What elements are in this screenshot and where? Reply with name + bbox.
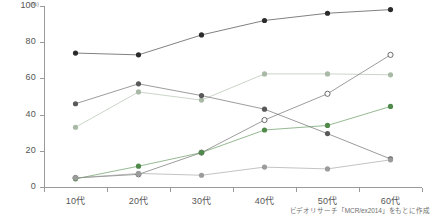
data-point: [388, 104, 393, 109]
data-point: [73, 175, 78, 180]
data-point: [262, 164, 267, 169]
data-point: [262, 71, 267, 76]
data-point: [136, 164, 141, 169]
data-point: [388, 72, 393, 77]
data-point: [388, 157, 393, 162]
series-series-2-pale-green: [73, 71, 393, 130]
data-point: [199, 93, 204, 98]
data-point: [73, 50, 78, 55]
data-point: [199, 150, 204, 155]
data-point: [73, 101, 78, 106]
data-point: [199, 98, 204, 103]
data-point: [262, 18, 267, 23]
series-series-6-mid-gray: [73, 157, 393, 180]
source-attribution: ビデオリサーチ「MCR/ex2014」をもとに作成: [290, 205, 430, 215]
data-point: [136, 89, 141, 94]
series-series-5-green: [73, 104, 393, 182]
series-line: [76, 10, 391, 55]
data-point: [262, 127, 267, 132]
plot-area: [0, 0, 434, 217]
series-series-4-open-circle: [73, 52, 393, 180]
data-point: [262, 107, 267, 112]
series-line: [76, 106, 391, 178]
data-point: [325, 123, 330, 128]
data-point: [388, 52, 393, 57]
data-point: [136, 52, 141, 57]
series-line: [76, 74, 391, 127]
data-point: [325, 71, 330, 76]
data-point: [199, 173, 204, 178]
data-point: [325, 91, 330, 96]
data-point: [388, 7, 393, 12]
data-point: [73, 125, 78, 130]
data-point: [325, 11, 330, 16]
series-series-1-dark: [73, 7, 393, 57]
data-point: [325, 166, 330, 171]
chart-container: (%) 020406080100 10代20代30代40代50代60代 ビデオリ…: [0, 0, 434, 217]
data-point: [325, 131, 330, 136]
data-point: [262, 117, 267, 122]
data-point: [136, 171, 141, 176]
data-point: [199, 32, 204, 37]
series-line: [76, 55, 391, 178]
series-series-3-dark-gray: [73, 81, 393, 161]
series-line: [76, 84, 391, 159]
data-point: [136, 81, 141, 86]
